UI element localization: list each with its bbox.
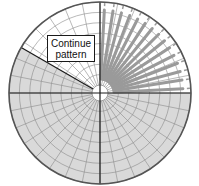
polar-pattern-diagram bbox=[0, 0, 199, 186]
slat-tip bbox=[168, 36, 170, 38]
slat-tip bbox=[131, 9, 132, 12]
slat-tip bbox=[178, 52, 181, 53]
label-line-1: Continue bbox=[48, 38, 94, 49]
continue-pattern-label: Continue pattern bbox=[47, 35, 95, 62]
slat-tip bbox=[123, 6, 124, 9]
slat-tip bbox=[155, 23, 157, 25]
label-line-2: pattern bbox=[48, 49, 94, 60]
slat-tip bbox=[181, 61, 184, 62]
slat-tip bbox=[139, 13, 140, 16]
slat-tip bbox=[162, 29, 164, 31]
radial-slats bbox=[101, 3, 190, 92]
slat-tip bbox=[184, 70, 187, 71]
